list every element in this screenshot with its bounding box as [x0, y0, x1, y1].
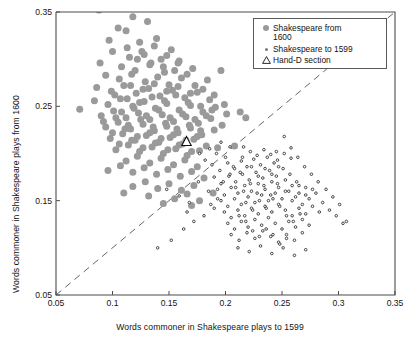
legend-label-to-1599: Shakespeare to 1599 — [273, 44, 381, 54]
legend-label-hand-d: Hand-D section — [273, 55, 381, 65]
y-axis-label: Words commoner in Shakespeare plays from… — [11, 95, 21, 293]
x-tick-label-3: 0.2 — [220, 298, 232, 308]
y-tick-label-1: 0.15 — [21, 196, 52, 206]
legend-item-hand-d: Hand-D section — [259, 55, 381, 65]
x-tick-label-5: 0.3 — [333, 298, 345, 308]
chart-legend: Shakespeare from 1600 Shakespeare to 159… — [253, 18, 387, 69]
x-tick-label-4: 0.25 — [274, 298, 291, 308]
legend-label-from-1600-cont: 1600 — [259, 32, 381, 42]
legend-filled-circle-icon — [259, 23, 273, 33]
y-tick-label-2: 0.25 — [21, 101, 52, 111]
y-tick-label-0: 0.05 — [21, 290, 52, 300]
x-tick-label-6: 0.35 — [387, 298, 404, 308]
legend-item-to-1599: Shakespeare to 1599 — [259, 44, 381, 54]
legend-triangle-icon — [259, 55, 273, 65]
legend-small-circle-icon — [259, 44, 273, 54]
x-tick-label-2: 0.15 — [161, 298, 178, 308]
x-axis-label: Words commoner in Shakespeare plays to 1… — [0, 322, 420, 332]
y-tick-label-3: 0.35 — [21, 7, 52, 17]
x-tick-label-1: 0.1 — [107, 298, 119, 308]
